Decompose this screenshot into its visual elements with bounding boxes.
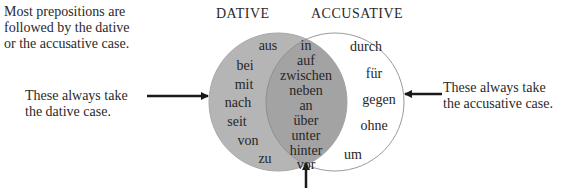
preposition-zwischen: zwischen <box>280 68 332 83</box>
preposition-ohne: ohne <box>360 118 387 133</box>
preposition-von: von <box>238 133 259 148</box>
preposition-seit: seit <box>227 114 247 129</box>
preposition-in: in <box>301 38 312 53</box>
preposition-für: für <box>366 66 383 81</box>
preposition-durch: durch <box>350 39 382 54</box>
preposition-vor: vor <box>297 157 316 172</box>
preposition-unter: unter <box>292 128 321 143</box>
preposition-gegen: gegen <box>362 92 395 107</box>
preposition-an: an <box>299 98 312 113</box>
venn-diagram: ausbeimitnachseitvonzu inaufzwischennebe… <box>0 0 571 188</box>
preposition-zu: zu <box>258 151 271 166</box>
preposition-über: über <box>294 113 319 128</box>
preposition-neben: neben <box>289 83 322 98</box>
preposition-mit: mit <box>235 77 254 92</box>
preposition-um: um <box>344 147 362 162</box>
preposition-nach: nach <box>225 95 251 110</box>
preposition-auf: auf <box>297 53 315 68</box>
preposition-aus: aus <box>259 38 278 53</box>
preposition-bei: bei <box>236 58 253 73</box>
preposition-hinter: hinter <box>290 143 323 158</box>
